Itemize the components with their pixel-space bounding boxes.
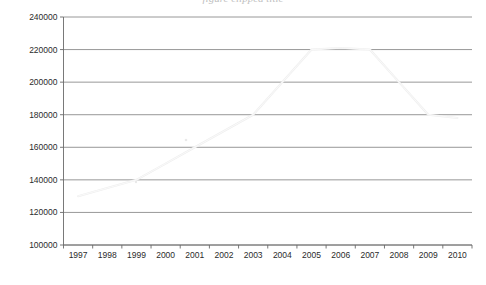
y-tick-label: 100000: [29, 240, 58, 250]
x-tick-label: 1998: [98, 250, 117, 260]
scan-artifact-dot: [185, 139, 188, 142]
x-tick-label: 2009: [419, 250, 438, 260]
x-tick-label: 2007: [360, 250, 379, 260]
x-tick-label: 2004: [273, 250, 292, 260]
chart-plot-area: 2400002200002000001800001600001400001200…: [0, 0, 486, 285]
x-tick-label: 2008: [390, 250, 409, 260]
x-tick-label: 1997: [69, 250, 88, 260]
y-tick-label: 200000: [29, 77, 58, 87]
y-tick-label: 120000: [29, 207, 58, 217]
x-tick-label: 2006: [331, 250, 350, 260]
x-tick-label: 2001: [185, 250, 204, 260]
x-tick-label: 2002: [215, 250, 234, 260]
data-series-line: [78, 48, 457, 196]
line-chart-figure: figure clipped title 2400002200002000001…: [0, 0, 486, 285]
x-tick-label: 2000: [156, 250, 175, 260]
scan-artifact-dot: [135, 181, 137, 183]
x-tick-label: 2010: [448, 250, 467, 260]
y-tick-label: 160000: [29, 142, 58, 152]
data-series-line-highlight: [78, 48, 457, 196]
y-tick-label: 180000: [29, 110, 58, 120]
y-axis-tick-marks: [60, 17, 64, 245]
x-tick-label: 2005: [302, 250, 321, 260]
x-axis-tick-labels: 1997199819992000200120022003200420052006…: [69, 250, 468, 260]
x-tick-label: 1999: [127, 250, 146, 260]
gridlines-group: [64, 17, 473, 245]
x-tick-label: 2003: [244, 250, 263, 260]
y-tick-label: 220000: [29, 45, 58, 55]
y-tick-label: 140000: [29, 175, 58, 185]
x-axis-tick-marks: [64, 245, 473, 249]
y-axis-tick-labels: 2400002200002000001800001600001400001200…: [29, 12, 58, 250]
y-tick-label: 240000: [29, 12, 58, 22]
